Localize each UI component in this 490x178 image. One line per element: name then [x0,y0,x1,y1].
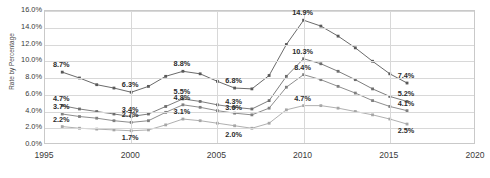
data-point-label: 8.4% [294,63,311,72]
y-axis-tick-label: 6.0% [2,90,42,98]
data-point-label: 7.4% [398,71,415,80]
data-point-label: 4.1% [398,99,415,108]
y-axis-tick-label: 8.0% [2,73,42,81]
x-axis-tick-label: 2010 [293,150,312,160]
y-axis-tick-label: 12.0% [2,40,42,48]
y-axis-tick-labels: 16.0%14.0%12.0%10.0%8.0%6.0%4.0%2.0%0.0% [0,10,42,144]
data-point-label: 4.8% [174,93,191,102]
x-axis-tick-label: 2005 [207,150,226,160]
data-point-label: 2.5% [398,126,415,135]
data-point-label: 6.8% [225,76,242,85]
y-axis-tick-label: 10.0% [2,56,42,64]
data-point-label: 2.0% [225,130,242,139]
data-point-label: 6.3% [122,80,139,89]
data-point-label: 1.7% [122,133,139,142]
line-chart: Rate by Percentage 16.0%14.0%12.0%10.0%8… [0,0,490,178]
x-axis-tick-labels: 199520002005201020152020 [44,150,475,164]
data-labels: 8.7%6.3%8.8%6.8%14.9%7.4%4.7%3.4%5.5%4.3… [44,10,475,144]
x-axis-tick-label: 2015 [379,150,398,160]
y-axis-tick-label: 2.0% [2,123,42,131]
x-axis-tick-label: 2000 [121,150,140,160]
data-point-label: 8.8% [174,59,191,68]
x-axis-tick-label: 1995 [34,150,53,160]
x-axis-tick-label: 2020 [465,150,484,160]
data-point-label: 8.7% [53,60,70,69]
data-point-label: 4.7% [294,94,311,103]
y-axis-tick-label: 14.0% [2,23,42,31]
data-point-label: 3.6% [225,103,242,112]
y-axis-tick-label: 4.0% [2,107,42,115]
data-point-label: 2.7% [122,110,139,119]
data-point-label: 14.9% [292,8,313,17]
data-point-label: 2.2% [53,115,70,124]
data-point-label: 3.1% [174,107,191,116]
data-point-label: 10.3% [292,47,313,56]
y-axis-tick-label: 0.0% [2,140,42,148]
data-point-label: 3.7% [53,102,70,111]
y-axis-tick-label: 16.0% [2,6,42,14]
data-point-label: 5.2% [398,89,415,98]
